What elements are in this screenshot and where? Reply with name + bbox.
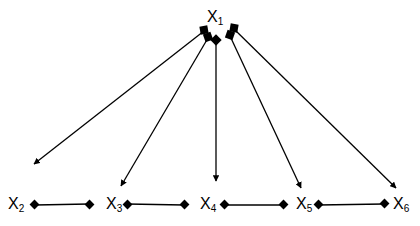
node-x1-label: X1 xyxy=(207,9,223,27)
diagram-edges xyxy=(0,0,420,226)
edge-x1-x2 xyxy=(34,31,204,164)
node-x4-label: X4 xyxy=(200,196,216,214)
diagram-canvas: X1 X2 X3 X4 X5 X6 xyxy=(0,0,420,226)
node-x5-label: X5 xyxy=(296,196,312,214)
diamond-x3-left xyxy=(85,200,95,210)
edge-x3-x4 xyxy=(127,204,184,205)
source-marker-x4 xyxy=(210,34,221,45)
diamond-x4-left xyxy=(180,200,190,210)
diamond-x5-right xyxy=(314,200,324,210)
diamond-x2-right xyxy=(30,200,40,210)
node-x3-label: X3 xyxy=(106,196,122,214)
source-marker-x6 xyxy=(229,23,238,32)
node-x6-label: X6 xyxy=(393,196,409,214)
edge-x5-x6 xyxy=(318,204,384,205)
edge-x1-x5 xyxy=(230,36,301,188)
diamond-x5-left xyxy=(279,200,289,210)
edge-x1-x6 xyxy=(234,29,396,188)
diamond-x6-left xyxy=(380,199,390,209)
diamond-x3-right xyxy=(123,200,133,210)
diamond-x4-right xyxy=(220,200,230,210)
edge-x1-x3 xyxy=(121,38,208,186)
node-x2-label: X2 xyxy=(8,196,24,214)
edge-x2-x3 xyxy=(35,204,89,205)
